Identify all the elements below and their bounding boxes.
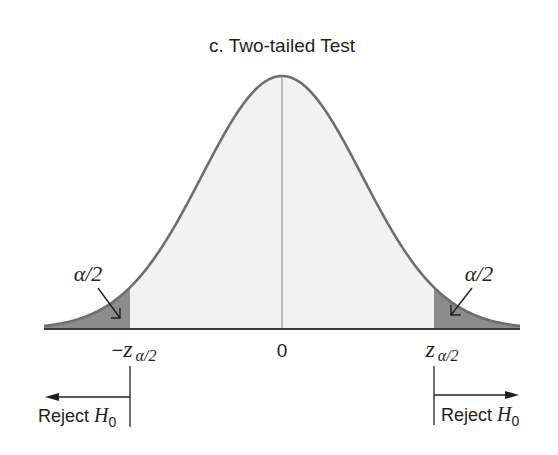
- right-critical-value-label: zα/2: [424, 336, 458, 364]
- left-tail-area-label: α/2: [74, 261, 103, 286]
- left-rejection-tail: [44, 287, 130, 329]
- right-tail-area-label: α/2: [465, 261, 494, 286]
- chart-title: c. Two-tailed Test: [209, 35, 356, 56]
- two-tailed-test-diagram: c. Two-tailed Test α/2 α/2 −zα/2 0 zα/2 …: [0, 0, 558, 455]
- left-reject-label: Reject H0: [38, 404, 116, 430]
- left-critical-value-label: −zα/2: [112, 336, 157, 364]
- center-value-label: 0: [277, 340, 288, 361]
- right-rejection-tail: [434, 287, 520, 329]
- right-reject-label: Reject H0: [441, 403, 519, 429]
